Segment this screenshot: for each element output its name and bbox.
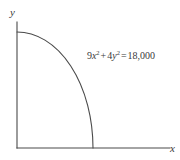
- ellipse-figure: y x 9x2+4y2=18,000: [0, 0, 180, 160]
- y-axis-label: y: [10, 7, 15, 18]
- equation-equals-operator: =: [120, 50, 128, 61]
- x-axis-label: x: [170, 143, 175, 154]
- equation-right-hand-side: 18,000: [128, 50, 156, 61]
- equation-annotation: 9x2+4y2=18,000: [75, 50, 167, 62]
- plot-canvas: [0, 0, 180, 160]
